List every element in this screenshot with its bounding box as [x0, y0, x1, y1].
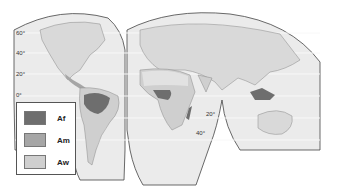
latitude-label-0: 0°: [16, 92, 22, 98]
latitude-label-20-south: 20°: [206, 111, 215, 117]
latitude-label-60: 60°: [16, 30, 25, 36]
latitude-label-40-south: 40°: [196, 130, 205, 136]
legend-swatch-am: [24, 133, 46, 147]
australia: [258, 111, 292, 135]
legend: Af Am Aw: [16, 102, 76, 175]
legend-swatch-aw: [24, 155, 46, 169]
legend-swatch-af: [24, 111, 46, 125]
latitude-label-40: 40°: [16, 50, 25, 56]
latitude-label-20: 20°: [16, 71, 25, 77]
legend-item-af: Af: [24, 111, 65, 125]
legend-label-af: Af: [57, 114, 65, 123]
legend-item-aw: Aw: [24, 155, 69, 169]
legend-label-am: Am: [57, 136, 70, 145]
legend-label-aw: Aw: [57, 158, 69, 167]
legend-item-am: Am: [24, 133, 70, 147]
